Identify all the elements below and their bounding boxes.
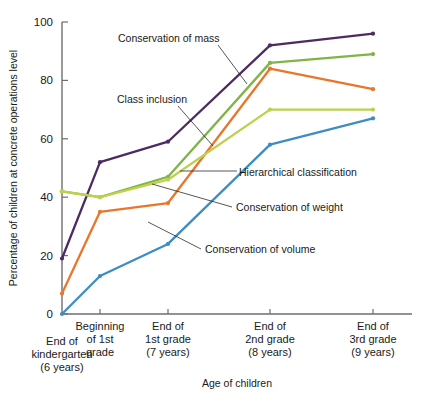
x-category-label-1: Beginning [76,320,125,332]
x-category-label-2: End of [152,320,185,332]
x-category-label-3: 2nd grade [245,333,295,345]
data-point-3-1 [98,195,102,199]
x-axis-title: Age of children [202,377,272,389]
data-point-2-4 [371,87,375,91]
y-tick-label: 0 [47,308,53,320]
data-point-2-3 [268,67,272,71]
series-line-2 [62,69,373,294]
annotation-leader-0 [218,45,247,84]
data-point-0-1 [98,160,102,164]
y-tick-label: 40 [40,191,53,203]
x-category-label-4: (9 years) [351,346,394,358]
x-category-label-0: (6 years) [40,361,83,373]
data-point-3-3 [268,108,272,112]
y-axis-title: Percentage of children at concrete opera… [7,50,19,286]
data-point-3-2 [166,178,170,182]
annotation-label-1: Class inclusion [117,93,187,105]
data-point-1-3 [268,61,272,65]
data-point-0-3 [268,43,272,47]
series-line-4 [62,118,373,314]
line-chart: 020406080100Percentage of children at co… [0,0,422,405]
data-point-0-4 [371,32,375,36]
x-category-label-1: grade [86,346,114,358]
data-point-0-2 [166,140,170,144]
y-tick-label: 100 [34,16,53,28]
annotation-label-0: Conservation of mass [118,32,220,44]
x-category-label-4: End of [357,320,390,332]
data-point-4-4 [371,116,375,120]
data-point-3-4 [371,108,375,112]
chart-container: 020406080100Percentage of children at co… [0,0,422,405]
x-category-label-3: End of [254,320,287,332]
y-tick-label: 60 [40,133,53,145]
x-category-label-0: kindergarten [31,348,92,360]
annotation-leader-4 [148,222,201,249]
data-point-2-0 [60,291,64,295]
data-point-4-2 [166,242,170,246]
x-category-label-2: 1st grade [145,333,191,345]
x-category-label-4: 3rd grade [349,333,396,345]
annotation-label-2: Hierarchical classification [239,166,357,178]
x-category-label-3: (8 years) [248,346,291,358]
annotation-label-3: Conservation of weight [236,201,343,213]
x-category-label-2: (7 years) [146,346,189,358]
data-point-2-2 [166,201,170,205]
data-point-4-3 [268,143,272,147]
x-category-label-0: End of [46,335,79,347]
data-point-2-1 [98,210,102,214]
annotation-label-4: Conservation of volume [205,243,315,255]
y-tick-label: 80 [40,74,53,86]
data-point-4-0 [60,312,64,316]
data-point-4-1 [98,274,102,278]
data-point-3-0 [60,189,64,193]
data-point-1-4 [371,52,375,56]
data-point-0-0 [60,256,64,260]
y-tick-label: 20 [40,250,53,262]
x-category-label-1: of 1st [87,333,114,345]
